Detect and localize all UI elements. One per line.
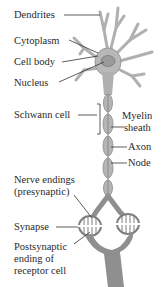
- label-postsynaptic-3: receptor cell: [14, 265, 66, 277]
- nucleus: [101, 56, 115, 67]
- label-nucleus: Nucleus: [14, 77, 48, 89]
- receptor-cell: [84, 232, 134, 287]
- label-myelin-sheath-1: Myelin: [122, 110, 152, 122]
- label-cytoplasm: Cytoplasm: [14, 35, 60, 47]
- synapse-right: [116, 214, 140, 234]
- label-node: Node: [128, 157, 151, 169]
- label-synapse: Synapse: [14, 221, 49, 233]
- synapse-left: [78, 216, 102, 236]
- label-cell-body: Cell body: [14, 56, 55, 68]
- label-axon: Axon: [128, 141, 151, 153]
- label-postsynaptic-1: Postsynaptic: [14, 241, 67, 253]
- label-nerve-endings-1: Nerve endings: [14, 174, 75, 186]
- label-myelin-sheath-2: sheath: [124, 122, 151, 134]
- label-nerve-endings-2: (presynaptic): [14, 186, 69, 198]
- label-schwann-cell: Schwann cell: [14, 109, 70, 121]
- label-postsynaptic-2: ending of: [14, 253, 54, 265]
- label-dendrites: Dendrites: [14, 9, 55, 21]
